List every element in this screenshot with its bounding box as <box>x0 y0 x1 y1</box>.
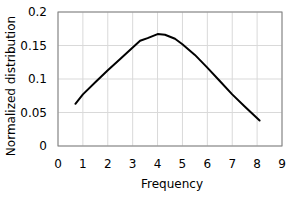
x-tick-label: 0 <box>54 157 62 171</box>
y-axis-ticks: 00.050.10.150.2 <box>20 5 47 153</box>
y-tick-label: 0.1 <box>28 72 47 86</box>
x-tick-label: 3 <box>129 157 137 171</box>
x-tick-label: 2 <box>104 157 112 171</box>
x-axis-title: Frequency <box>141 177 203 191</box>
x-axis-ticks: 0123456789 <box>54 157 286 171</box>
y-tick-label: 0.2 <box>28 5 47 19</box>
x-tick-label: 1 <box>79 157 87 171</box>
x-tick-label: 5 <box>179 157 187 171</box>
y-tick-label: 0.15 <box>20 39 47 53</box>
x-tick-label: 6 <box>204 157 212 171</box>
x-tick-label: 9 <box>278 157 286 171</box>
grid-lines <box>58 12 282 146</box>
line-chart: 0123456789 00.050.10.150.2 Frequency Nor… <box>0 0 286 197</box>
x-tick-label: 7 <box>228 157 236 171</box>
x-tick-label: 8 <box>253 157 261 171</box>
y-tick-label: 0 <box>39 139 47 153</box>
x-tick-label: 4 <box>154 157 162 171</box>
y-tick-label: 0.05 <box>20 106 47 120</box>
y-axis-title: Normalized distribution <box>4 16 18 156</box>
